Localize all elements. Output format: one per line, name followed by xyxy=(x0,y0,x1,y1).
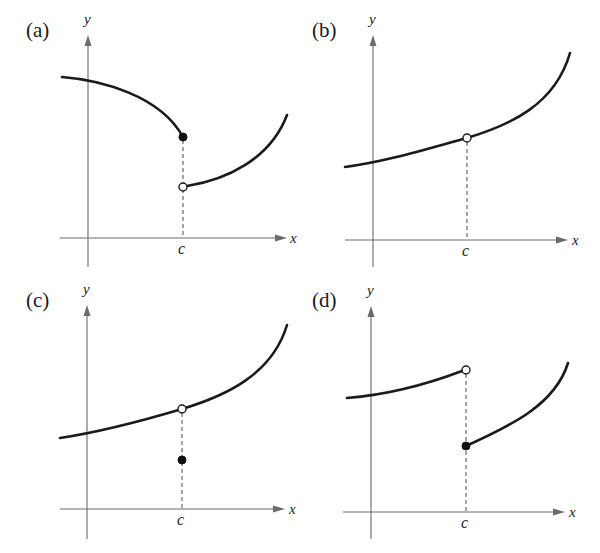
panel-b: (b) y x c xyxy=(312,11,579,267)
panel-d: (d) y x c xyxy=(312,282,576,539)
x-axis-arrow-icon xyxy=(273,506,285,513)
y-axis-label: y xyxy=(82,11,91,27)
left-branch-curve xyxy=(347,371,462,398)
x-axis-label: x xyxy=(568,504,576,520)
filled-point xyxy=(179,133,187,141)
x-axis-arrow-icon xyxy=(553,509,565,516)
y-axis-arrow-icon xyxy=(85,35,92,46)
discontinuity-figure: (a) y x c (b) y x c (c) y xyxy=(0,0,600,553)
open-point xyxy=(462,366,470,374)
open-point xyxy=(178,405,186,413)
open-point xyxy=(463,134,471,142)
panel-label: (d) xyxy=(312,288,337,312)
panel-label: (b) xyxy=(312,18,337,42)
right-branch-curve xyxy=(466,363,568,446)
x-axis-label: x xyxy=(571,232,579,248)
c-tick-label: c xyxy=(461,514,468,531)
x-axis-label: x xyxy=(288,501,296,517)
panel-a: (a) y x c xyxy=(26,11,297,267)
y-axis-label: y xyxy=(367,11,376,27)
left-branch-curve xyxy=(62,77,183,137)
y-axis-arrow-icon xyxy=(84,305,91,316)
y-axis-arrow-icon xyxy=(368,306,375,317)
panel-c: (c) y x c xyxy=(26,281,296,539)
panel-label: (a) xyxy=(26,18,49,42)
x-axis-arrow-icon xyxy=(275,235,287,242)
filled-point xyxy=(178,456,186,464)
c-tick-label: c xyxy=(177,511,184,528)
y-axis-label: y xyxy=(365,282,374,298)
c-tick-label: c xyxy=(462,242,469,259)
x-axis-label: x xyxy=(289,230,297,246)
curve xyxy=(345,53,570,167)
curve xyxy=(60,325,287,438)
panel-label: (c) xyxy=(26,288,49,312)
y-axis-arrow-icon xyxy=(370,35,377,46)
right-branch-curve xyxy=(187,115,287,186)
open-point xyxy=(179,183,187,191)
y-axis-label: y xyxy=(81,281,90,297)
filled-point xyxy=(462,442,470,450)
x-axis-arrow-icon xyxy=(556,237,568,244)
c-tick-label: c xyxy=(178,240,185,257)
